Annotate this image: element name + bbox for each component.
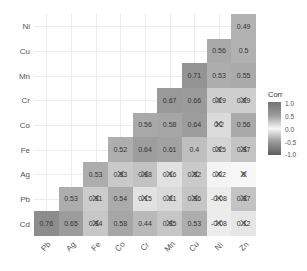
heatmap-cell: 0.53 xyxy=(182,211,207,236)
heatmap-cell: 0.54 xyxy=(108,187,133,212)
cell-value: 0.76 xyxy=(40,220,54,227)
heatmap-cell: 0.5 xyxy=(231,39,256,64)
cell-value: 0.61 xyxy=(163,146,177,153)
heatmap-cell: 0.4 xyxy=(182,137,207,162)
cell-value: 0.67 xyxy=(163,97,177,104)
insignificant-cross-icon: ✕ xyxy=(116,169,125,180)
y-axis-label: Cu xyxy=(0,47,30,56)
cell-value: 0.49 xyxy=(237,23,251,30)
insignificant-cross-icon: ✕ xyxy=(140,169,149,180)
cell-value: 0.54 xyxy=(114,195,128,202)
heatmap-cell: 0.31✕ xyxy=(83,187,108,212)
insignificant-cross-icon: ✕ xyxy=(214,193,223,204)
insignificant-cross-icon: ✕ xyxy=(91,193,100,204)
cell-value: 0.56 xyxy=(138,121,152,128)
cell-value: 0.53 xyxy=(188,220,202,227)
y-axis-label: Mn xyxy=(0,71,30,80)
heatmap-cell: 0.56 xyxy=(207,39,232,64)
y-axis-label: Pb xyxy=(0,195,30,204)
heatmap-cell: 0.58 xyxy=(157,113,182,138)
y-axis-label: Ag xyxy=(0,170,30,179)
heatmap-cell: 0.35✕ xyxy=(157,211,182,236)
heatmap-cell: 0.38✕ xyxy=(133,162,158,187)
y-axis-label: Cr xyxy=(0,96,30,105)
insignificant-cross-icon: ✕ xyxy=(239,193,248,204)
insignificant-cross-icon: ✕ xyxy=(214,144,223,155)
heatmap-cell: 0.33✕ xyxy=(108,162,133,187)
heatmap-cell: 0.36✕ xyxy=(182,187,207,212)
heatmap-cell: 0.12✕ xyxy=(231,211,256,236)
heatmap-cell: 0.65 xyxy=(59,211,84,236)
cell-value: 0.64 xyxy=(138,146,152,153)
cell-value: 0.4 xyxy=(189,146,199,153)
heatmap-cell: 0.37✕ xyxy=(231,137,256,162)
insignificant-cross-icon: ✕ xyxy=(214,119,223,130)
heatmap-cell: 0.34✕ xyxy=(83,211,108,236)
x-axis-label: Cr xyxy=(135,236,156,257)
insignificant-cross-icon: ✕ xyxy=(165,218,174,229)
heatmap-cell: -0.08✕ xyxy=(207,211,232,236)
insignificant-cross-icon: ✕ xyxy=(239,218,248,229)
heatmap-cell: 0.56 xyxy=(231,113,256,138)
cell-value: 0.65 xyxy=(64,220,78,227)
insignificant-cross-icon: ✕ xyxy=(165,169,174,180)
heatmap-cell: 0.55 xyxy=(231,63,256,88)
x-axis-label: Mn xyxy=(159,236,180,257)
legend-tick: 1.0 xyxy=(285,100,294,107)
heatmap-plot-area: 0.490.560.50.710.530.550.670.660.29✕0.29… xyxy=(34,14,256,236)
insignificant-cross-icon: ✕ xyxy=(239,144,248,155)
heatmap-cell: 0.52 xyxy=(108,137,133,162)
legend-tick: -1.0 xyxy=(285,151,296,158)
cell-value: 0.66 xyxy=(188,97,202,104)
x-axis-label: Ag xyxy=(61,236,82,257)
insignificant-cross-icon: ✕ xyxy=(140,193,149,204)
x-axis-label: Fe xyxy=(85,236,106,257)
x-axis-label: Ni xyxy=(209,236,230,257)
y-axis-label: Co xyxy=(0,121,30,130)
legend-title: Corr xyxy=(268,90,283,99)
x-axis-label: Zn xyxy=(233,236,254,257)
heatmap-cell: 0.37✕ xyxy=(231,187,256,212)
x-axis-label: Co xyxy=(110,236,131,257)
cell-value: 0.56 xyxy=(212,47,226,54)
heatmap-cell: 0.76 xyxy=(34,211,59,236)
heatmap-cell: 0.67 xyxy=(157,88,182,113)
cell-value: 0.5 xyxy=(239,47,249,54)
heatmap-cell: 0.25✕ xyxy=(207,137,232,162)
legend-gradient-bar xyxy=(268,102,281,155)
heatmap-cell: 0.66 xyxy=(182,88,207,113)
insignificant-cross-icon: ✕ xyxy=(214,218,223,229)
x-axis-label: Cu xyxy=(184,236,205,257)
insignificant-cross-icon: ✕ xyxy=(239,169,248,180)
heatmap-cell: 0.56 xyxy=(133,113,158,138)
legend-tick: -0.5 xyxy=(285,139,296,146)
heatmap-cell: 0.2✕ xyxy=(207,113,232,138)
cell-value: 0.52 xyxy=(114,146,128,153)
heatmap-cell: 0.29✕ xyxy=(207,88,232,113)
cell-value: 0.56 xyxy=(237,121,251,128)
heatmap-cell: 0.02✕ xyxy=(207,162,232,187)
heatmap-cell: 0.44 xyxy=(133,211,158,236)
heatmap-cell: 0.53 xyxy=(59,187,84,212)
insignificant-cross-icon: ✕ xyxy=(239,95,248,106)
cell-value: 0.53 xyxy=(212,72,226,79)
heatmap-cell: 0.21✕ xyxy=(157,187,182,212)
heatmap-cell: 0.61 xyxy=(157,137,182,162)
insignificant-cross-icon: ✕ xyxy=(91,218,100,229)
color-legend: Corr 1.0 0.5 0.0 -0.5 -1.0 xyxy=(268,90,283,103)
cell-value: 0.71 xyxy=(188,72,202,79)
heatmap-cell: 0.16✕ xyxy=(157,162,182,187)
cell-value: 0.55 xyxy=(237,72,251,79)
heatmap-cell: 0.49 xyxy=(231,14,256,39)
cell-value: 0.58 xyxy=(163,121,177,128)
y-axis-label: Fe xyxy=(0,145,30,154)
insignificant-cross-icon: ✕ xyxy=(190,169,199,180)
heatmap-cell: 0.15✕ xyxy=(133,187,158,212)
insignificant-cross-icon: ✕ xyxy=(165,193,174,204)
legend-tick: 0.0 xyxy=(285,126,294,133)
cell-value: 0.44 xyxy=(138,220,152,227)
cell-value: 0.58 xyxy=(114,220,128,227)
insignificant-cross-icon: ✕ xyxy=(214,95,223,106)
insignificant-cross-icon: ✕ xyxy=(214,169,223,180)
y-axis-label: Ni xyxy=(0,22,30,31)
